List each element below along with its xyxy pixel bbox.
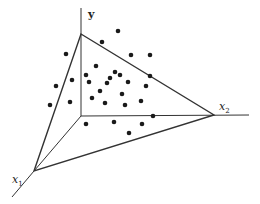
- x2-axis: [81, 115, 249, 116]
- coordinate-plane-diagram: y x1 x2: [0, 0, 260, 204]
- axis-lines: [12, 8, 249, 197]
- data-point: [139, 99, 144, 104]
- data-point: [100, 40, 105, 45]
- data-point: [127, 131, 132, 136]
- data-point: [90, 96, 95, 101]
- data-point: [94, 64, 99, 69]
- data-point: [103, 101, 108, 106]
- data-point: [70, 78, 75, 83]
- y-axis-label: y: [87, 8, 95, 21]
- data-point: [148, 74, 153, 79]
- data-point: [84, 73, 89, 78]
- data-point: [54, 84, 59, 89]
- data-point: [105, 81, 110, 86]
- data-point: [140, 122, 145, 127]
- data-point: [144, 84, 149, 89]
- axis-subscript: 2: [225, 107, 229, 115]
- diagram-canvas: y x1 x2: [0, 0, 260, 204]
- x1-axis-label: x1: [12, 173, 23, 188]
- data-point: [98, 89, 103, 94]
- data-point: [113, 70, 118, 75]
- data-point: [64, 52, 69, 57]
- data-point: [123, 103, 128, 108]
- data-point: [118, 73, 123, 78]
- axis-subscript: 1: [18, 180, 22, 188]
- data-point: [48, 103, 53, 108]
- data-point: [129, 53, 134, 58]
- data-point: [108, 76, 113, 81]
- data-point: [126, 80, 131, 85]
- data-point: [87, 80, 92, 85]
- x1-axis: [34, 116, 81, 171]
- data-point: [84, 122, 89, 127]
- data-point: [151, 114, 156, 119]
- plane-triangle-outline: [34, 34, 214, 171]
- data-point: [116, 29, 121, 34]
- data-point: [120, 92, 125, 97]
- x2-axis-label: x2: [219, 100, 230, 115]
- data-point: [112, 120, 117, 125]
- data-point: [148, 53, 153, 58]
- plane-triangle: [34, 34, 214, 171]
- data-point: [68, 100, 73, 105]
